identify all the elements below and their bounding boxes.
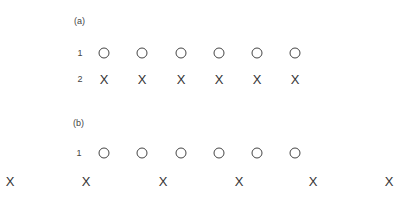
row-label: 1 <box>77 48 82 58</box>
cross-symbol: X <box>309 175 318 188</box>
circle-symbol <box>214 148 225 159</box>
circle-symbol <box>137 148 148 159</box>
cross-symbol: X <box>100 73 109 86</box>
circle-symbol <box>176 148 187 159</box>
circle-symbol <box>290 148 301 159</box>
cross-symbol: X <box>6 175 15 188</box>
cross-symbol: X <box>215 73 224 86</box>
cross-symbol: X <box>235 175 244 188</box>
cross-symbol: X <box>138 73 147 86</box>
row-label: 1 <box>76 148 81 158</box>
panel-label: (a) <box>74 16 85 26</box>
circle-symbol <box>252 48 263 59</box>
circle-symbol <box>252 148 263 159</box>
circle-symbol <box>176 48 187 59</box>
circle-symbol <box>214 48 225 59</box>
row-label: 2 <box>77 74 82 84</box>
cross-symbol: X <box>385 175 394 188</box>
panel-label: (b) <box>73 118 84 128</box>
cross-symbol: X <box>177 73 186 86</box>
cross-symbol: X <box>159 175 168 188</box>
circle-symbol <box>99 148 110 159</box>
cross-symbol: X <box>253 73 262 86</box>
circle-symbol <box>137 48 148 59</box>
circle-symbol <box>99 48 110 59</box>
cross-symbol: X <box>291 73 300 86</box>
cross-symbol: X <box>82 175 91 188</box>
circle-symbol <box>290 48 301 59</box>
